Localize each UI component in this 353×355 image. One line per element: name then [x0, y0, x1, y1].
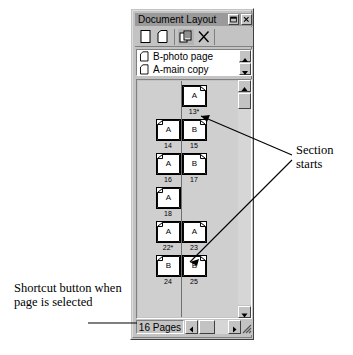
duplicate-page-button[interactable]	[178, 29, 194, 45]
close-icon	[242, 15, 251, 24]
page-number: 13*	[181, 108, 207, 116]
minimize-icon	[229, 15, 238, 24]
horizontal-scrollbar[interactable]	[185, 320, 241, 334]
blank-page-icon	[138, 29, 154, 45]
master-page-icon	[139, 51, 150, 62]
page-thumb[interactable]: B	[156, 255, 181, 277]
page-number: 16	[155, 176, 181, 184]
page-count-label: 16 Pages	[137, 321, 183, 334]
palette-title-bar[interactable]: Document Layout	[135, 13, 253, 26]
page-number: 18	[155, 210, 181, 218]
pages-scroll-track[interactable]	[238, 109, 251, 305]
scroll-left-icon	[186, 324, 197, 335]
page-master-letter: B	[156, 262, 181, 270]
page-master-letter: A	[156, 194, 181, 202]
new-page-button[interactable]	[138, 29, 154, 45]
master-pages-list[interactable]: B-photo page A-main copy	[136, 49, 252, 76]
scroll-right-icon	[229, 324, 240, 335]
minimize-button[interactable]	[228, 14, 239, 25]
page-thumb[interactable]: A	[156, 119, 181, 141]
delete-x-icon	[196, 29, 212, 45]
pages-scroll-thumb[interactable]	[238, 93, 251, 109]
page-master-letter: B	[182, 262, 207, 270]
pages-scroll-down-button[interactable]	[238, 306, 251, 318]
page-thumb[interactable]: A	[156, 153, 181, 175]
page-number: 24	[155, 278, 181, 286]
insert-page-button[interactable]	[155, 29, 171, 45]
scroll-left-button[interactable]	[185, 320, 198, 334]
palette-inner-frame: Document Layout	[132, 10, 252, 338]
master-scroll-up-button[interactable]	[239, 50, 251, 62]
page-number: 23	[181, 244, 207, 252]
master-list-scrollbar[interactable]	[239, 50, 251, 75]
pages-pane[interactable]: A 13* A B 14	[136, 79, 252, 319]
close-button[interactable]	[241, 14, 252, 25]
master-page-item-b[interactable]: B-photo page	[138, 50, 238, 63]
page-master-letter: B	[182, 126, 207, 134]
page-thumb[interactable]: B	[182, 119, 207, 141]
page-thumb[interactable]: B	[182, 255, 207, 277]
page-master-letter: A	[156, 126, 181, 134]
palette-status-bar: 16 Pages	[135, 319, 253, 335]
folded-page-icon	[155, 29, 171, 45]
page-thumb[interactable]: A	[182, 85, 207, 107]
toolbar-separator	[174, 29, 175, 45]
page-thumb[interactable]: A	[182, 221, 207, 243]
resize-grip-icon[interactable]	[240, 322, 252, 334]
palette-toolbar	[135, 27, 253, 47]
horizontal-scroll-thumb[interactable]	[199, 320, 215, 334]
pages-scroll-up-button[interactable]	[238, 80, 251, 92]
palette-title: Document Layout	[138, 13, 216, 26]
page-number: 17	[181, 176, 207, 184]
master-scroll-down-button[interactable]	[239, 63, 251, 75]
delete-page-button[interactable]	[196, 29, 212, 45]
toolbar-separator-2	[214, 29, 215, 45]
master-page-label: B-photo page	[153, 50, 213, 63]
page-count-shortcut-button[interactable]: 16 Pages	[136, 320, 184, 334]
page-thumb[interactable]: B	[182, 153, 207, 175]
master-page-item-a[interactable]: A-main copy	[138, 63, 238, 76]
page-number: 25	[181, 278, 207, 286]
page-master-letter: A	[182, 228, 207, 236]
pages-canvas[interactable]: A 13* A B 14	[138, 81, 238, 317]
scroll-down-icon	[240, 68, 250, 78]
page-number: 14	[155, 142, 181, 150]
page-master-letter: A	[156, 228, 181, 236]
duplicate-pages-icon	[178, 29, 194, 45]
page-master-letter: A	[156, 160, 181, 168]
master-page-icon	[139, 64, 150, 75]
page-number: 22*	[155, 244, 181, 252]
document-layout-palette: Document Layout	[130, 8, 254, 340]
page-thumb[interactable]: A	[156, 187, 181, 209]
annotation-shortcut-button: Shortcut button when page is selected	[14, 281, 126, 309]
page-master-letter: B	[182, 160, 207, 168]
annotation-section-starts: Section starts	[296, 143, 352, 171]
page-thumb[interactable]: A	[156, 221, 181, 243]
page-master-letter: A	[182, 92, 207, 100]
master-page-label: A-main copy	[153, 63, 209, 76]
page-number: 15	[181, 142, 207, 150]
pages-vertical-scrollbar[interactable]	[238, 80, 251, 318]
